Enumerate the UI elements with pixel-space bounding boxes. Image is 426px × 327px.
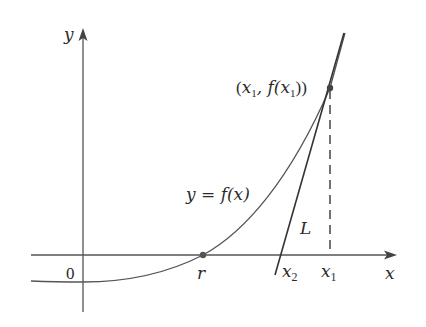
curve-label-prefix: y = xyxy=(185,184,221,204)
pt-x: x xyxy=(242,77,252,97)
curve-label: y = f(x) xyxy=(185,184,250,204)
x-axis-label: x xyxy=(385,263,395,283)
x2-sub: 2 xyxy=(292,270,298,284)
y-axis-label: y xyxy=(63,24,74,44)
tangent-line-L xyxy=(275,33,344,275)
curve-label-func: f(x) xyxy=(219,184,250,204)
x2-label: x2 xyxy=(282,261,298,284)
origin-label: 0 xyxy=(66,264,75,283)
root-label: r xyxy=(197,263,206,283)
tangent-point xyxy=(327,85,333,91)
pt-mid: , f( xyxy=(257,77,281,97)
x1-sub: 1 xyxy=(331,270,337,284)
newton-method-diagram: y x 0 r x2 x1 L y = f(x) (x1, f(x1)) xyxy=(0,0,426,327)
x2-base: x xyxy=(282,261,292,281)
curve-f xyxy=(31,33,345,282)
paren-close: )) xyxy=(296,78,307,97)
pt-x2: x xyxy=(281,77,291,97)
x1-label: x1 xyxy=(321,261,337,284)
x1-base: x xyxy=(321,261,331,281)
root-point xyxy=(200,252,206,258)
tangent-point-label: (x1, f(x1)) xyxy=(236,77,307,99)
tangent-label: L xyxy=(299,218,311,238)
